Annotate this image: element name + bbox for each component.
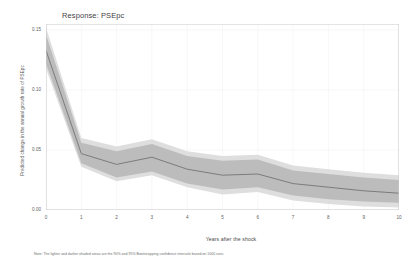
chart-footnote: Note: The lighter and darker shaded area… bbox=[34, 252, 224, 256]
chart-title: Response: PSEpc bbox=[62, 11, 124, 20]
x-tick-label: 2 bbox=[110, 215, 124, 220]
chart-canvas bbox=[46, 24, 399, 210]
x-tick-label: 4 bbox=[180, 215, 194, 220]
x-axis-title: Years after the shock bbox=[63, 236, 399, 242]
x-tick-label: 5 bbox=[216, 215, 230, 220]
y-tick-label: 0.10 bbox=[21, 87, 41, 92]
y-tick-label: 0.05 bbox=[21, 147, 41, 152]
y-axis-title: Predicted change in the annual growth ra… bbox=[20, 36, 25, 206]
x-tick-label: 6 bbox=[251, 215, 265, 220]
x-tick-label: 9 bbox=[357, 215, 371, 220]
plot-area: 0.000.050.100.15 012345678910 bbox=[46, 24, 399, 210]
y-tick-label: 0.00 bbox=[21, 207, 41, 212]
x-tick-label: 1 bbox=[74, 215, 88, 220]
impulse-response-figure: Response: PSEpc Predicted change in the … bbox=[0, 0, 419, 274]
x-tick-label: 0 bbox=[39, 215, 53, 220]
x-tick-label: 3 bbox=[145, 215, 159, 220]
x-tick-label: 7 bbox=[286, 215, 300, 220]
y-tick-label: 0.15 bbox=[21, 27, 41, 32]
x-tick-label: 10 bbox=[392, 215, 406, 220]
x-tick-label: 8 bbox=[321, 215, 335, 220]
